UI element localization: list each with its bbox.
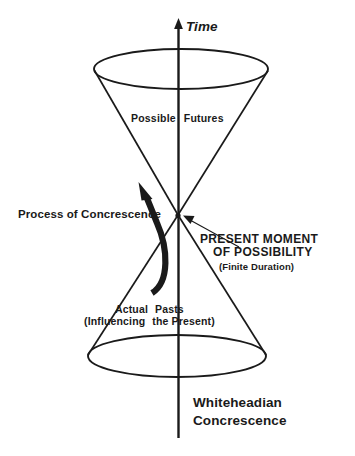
present-moment-vertex [175,213,180,218]
upper-cone-right-edge [178,71,268,216]
possible-futures-label: PossibleFutures [131,113,224,125]
present-moment-label: PRESENT MOMENT OF POSSIBILITY (Finite Du… [200,233,318,273]
process-of-concrescence-label: Process of Concrescence [18,208,161,221]
actual-pasts-label: ActualPasts (Influencingthe Present) [84,304,215,328]
whiteheadian-concrescence-diagram: Time PossibleFutures Process of Concresc… [0,0,355,456]
time-axis [174,18,183,438]
lower-cone-rim-ellipse [88,335,266,377]
time-axis-label: Time [186,19,218,34]
present-moment-label-line-2: OF POSSIBILITY [200,246,318,259]
process-of-concrescence-arrow [139,182,166,293]
figure-title-line-2: Concrescence [193,412,287,430]
cone-graphic [0,0,355,456]
upper-cone [94,49,268,215]
possible-futures-label-part-2: Futures [184,113,224,125]
figure-title-line-1: Whiteheadian [193,394,287,412]
time-axis-arrowhead [174,18,183,29]
upper-cone-rim-ellipse [94,49,268,89]
upper-cone-left-edge [95,71,179,216]
actual-pasts-sublabel-part-1: (Influencing [84,315,145,327]
actual-pasts-label-part-1: Actual [115,303,148,315]
process-arrow-head [139,182,153,201]
figure-title: Whiteheadian Concrescence [193,394,287,430]
finite-duration-sublabel: (Finite Duration) [200,260,318,273]
actual-pasts-sublabel-part-2: the Present) [152,315,214,327]
actual-pasts-sublabel-line: (Influencingthe Present) [84,316,215,328]
possible-futures-label-part-1: Possible [131,113,176,125]
actual-pasts-label-part-2: Pasts [155,303,184,315]
pointer-arrow-head [183,216,195,225]
present-moment-label-line-1: PRESENT MOMENT [200,233,318,246]
